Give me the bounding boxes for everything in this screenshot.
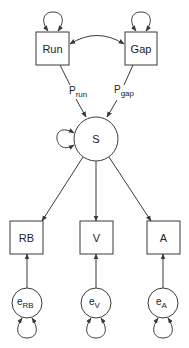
node-e-v: eV [81, 288, 111, 338]
s-to-rb-arrow [42, 157, 83, 221]
node-gap-label: Gap [131, 43, 152, 55]
node-gap: Gap [125, 12, 157, 65]
node-e-a: eA [148, 288, 178, 338]
p-run-label: Prun [69, 85, 87, 99]
node-e-rb: eRB [12, 288, 42, 338]
node-run: Run [36, 12, 69, 65]
gap-self-loop-icon [132, 12, 151, 31]
node-v-label: V [93, 232, 101, 244]
run-self-loop-icon [44, 12, 63, 31]
node-rb-label: RB [19, 232, 34, 244]
node-s-label: S [92, 133, 99, 145]
gap-to-s-arrow-top [124, 65, 133, 85]
path-diagram: Run Gap Prun Pgap S RB V A [0, 0, 189, 348]
run-to-s-arrow [76, 99, 86, 117]
node-rb: RB [10, 221, 43, 254]
gap-to-s-arrow [107, 100, 117, 117]
erb-self-loop-icon [18, 318, 37, 338]
s-to-a-arrow [109, 157, 151, 221]
node-run-label: Run [42, 43, 62, 55]
s-self-loop-icon [57, 130, 74, 148]
node-v: V [80, 221, 113, 254]
ea-self-loop-icon [154, 318, 173, 338]
p-gap-label: Pgap [114, 84, 135, 98]
node-a-label: A [160, 232, 168, 244]
ev-self-loop-icon [87, 318, 106, 338]
run-gap-covariance-arrow [70, 36, 124, 45]
node-a: A [147, 221, 180, 254]
run-to-s-arrow-top [60, 65, 70, 85]
node-s: S [57, 117, 118, 161]
